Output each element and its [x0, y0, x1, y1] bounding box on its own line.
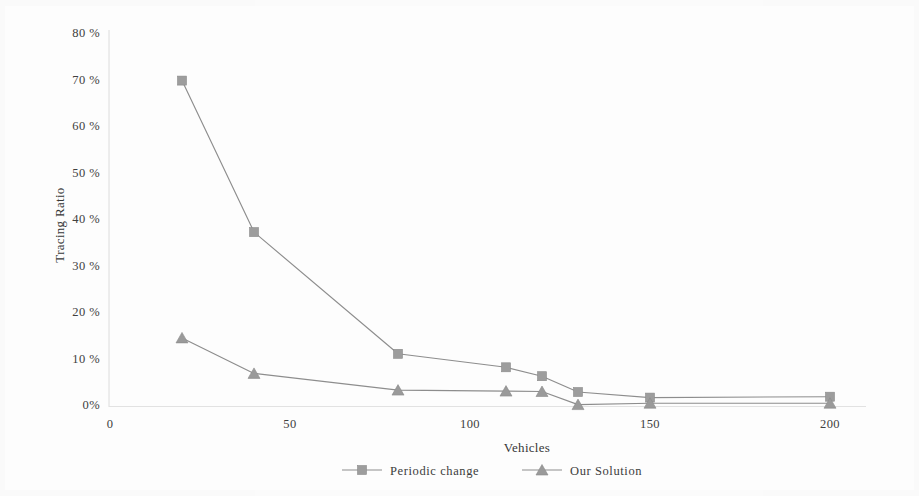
- chart-container: 80 % 70 % 60 % 50 % 40 % 30 % 20 % 10 % …: [0, 0, 919, 496]
- y-tick-label-50: 50 %: [72, 166, 100, 180]
- y-tick-label-60: 60 %: [72, 119, 100, 133]
- y-tick-label-40: 40 %: [72, 212, 100, 226]
- data-point-marker: [394, 349, 403, 358]
- y-tick-label-10: 10 %: [72, 352, 100, 366]
- legend-label-periodic-change: Periodic change: [390, 464, 479, 478]
- x-tick-label-50: 50: [283, 417, 296, 431]
- legend-square-marker-icon: [358, 466, 367, 475]
- x-axis-title: Vehicles: [504, 440, 550, 455]
- x-tick-label-150: 150: [640, 417, 660, 431]
- data-point-marker: [178, 76, 187, 85]
- line-chart: 80 % 70 % 60 % 50 % 40 % 30 % 20 % 10 % …: [0, 0, 919, 496]
- y-tick-label-0: 0%: [83, 398, 100, 412]
- data-point-marker: [538, 372, 547, 381]
- data-point-marker: [574, 388, 583, 397]
- y-axis-title: Tracing Ratio: [52, 187, 67, 262]
- x-tick-label-0: 0: [107, 417, 114, 431]
- y-tick-label-20: 20 %: [72, 305, 100, 319]
- y-tick-label-30: 30 %: [72, 259, 100, 273]
- legend-label-our-solution: Our Solution: [570, 464, 642, 478]
- y-tick-label-80: 80 %: [72, 26, 100, 40]
- y-tick-label-70: 70 %: [72, 73, 100, 87]
- x-tick-label-200: 200: [820, 417, 840, 431]
- x-tick-label-100: 100: [460, 417, 480, 431]
- data-point-marker: [502, 363, 511, 372]
- data-point-marker: [250, 228, 259, 237]
